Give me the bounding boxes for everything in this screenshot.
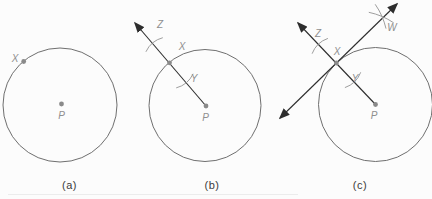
point-label-X-b: X [178, 41, 186, 52]
point-label-Y-b: Y [191, 73, 199, 84]
caption-a: (a) [62, 179, 77, 191]
ray-c-1 [280, 4, 397, 118]
point-label-Z-b: Z [156, 19, 164, 30]
tangent-construction-figure: XP(a)ZXYP(b)ZXYWP(c) [0, 0, 432, 199]
point-dot-X-c [334, 61, 339, 66]
caption-c: (c) [353, 179, 367, 191]
point-label-Y-c: Y [352, 73, 360, 84]
compass-arc-b-1 [146, 38, 163, 52]
point-dot-P-a [59, 102, 64, 107]
point-dot-P-b [204, 104, 209, 109]
point-label-Z-c: Z [314, 28, 322, 39]
point-dot-X-a [21, 59, 26, 64]
point-label-W-c: W [387, 22, 398, 33]
point-dot-P-c [373, 102, 378, 107]
point-label-P-b: P [202, 112, 209, 123]
point-label-P-c: P [371, 110, 378, 121]
diagram-canvas: XP(a)ZXYP(b)ZXYWP(c) [0, 0, 432, 199]
panel-a: XP(a) [3, 48, 117, 191]
panels-group: XP(a)ZXYP(b)ZXYWP(c) [3, 4, 432, 195]
point-label-X-c: X [333, 46, 341, 57]
caption-b: (b) [205, 179, 220, 191]
point-dot-X-b [167, 60, 172, 65]
point-label-X-a: X [11, 53, 19, 64]
point-label-P-a: P [58, 110, 65, 121]
panel-c: ZXYWP(c) [280, 4, 432, 191]
panel-b: ZXYP(b) [135, 19, 261, 191]
